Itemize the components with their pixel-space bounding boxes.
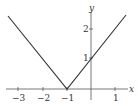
tick-label-m1: −1 [61,93,74,103]
ytick-label-2: 2 [83,24,89,34]
ytick-label-1: 1 [83,53,89,63]
x-axis-label: x [129,84,134,94]
chart: x y −3 −2 −1 1 1 2 [0,0,140,106]
tick-label-m3: −3 [12,93,26,103]
abs-value-curve [8,15,126,89]
y-axis-label: y [88,3,95,13]
tick-label-1: 1 [113,93,119,103]
tick-label-m2: −2 [37,93,50,103]
